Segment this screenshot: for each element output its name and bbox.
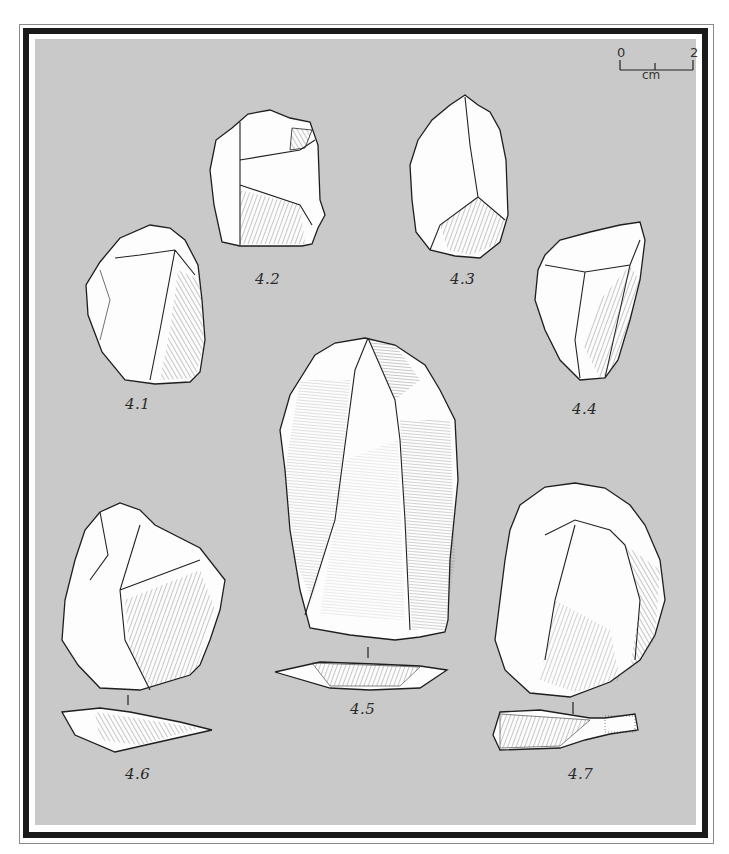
artifact-4-4 <box>535 222 645 380</box>
artifact-4-7 <box>493 483 665 750</box>
artifact-4-1 <box>86 225 205 384</box>
artifact-4-2 <box>210 110 325 246</box>
artifact-4-3 <box>410 95 508 258</box>
figure-label-4-4: 4.4 <box>572 400 597 418</box>
scale-end: 2 <box>690 45 698 60</box>
artifact-drawings <box>0 0 729 854</box>
figure-label-4-1: 4.1 <box>125 395 150 413</box>
figure-label-4-6: 4.6 <box>125 765 150 783</box>
scale-start: 0 <box>617 45 625 60</box>
artifact-4-5 <box>275 338 458 690</box>
scale-unit: cm <box>642 68 660 82</box>
scale-labels: 0 2 cm <box>617 45 697 85</box>
figure-label-4-7: 4.7 <box>568 765 593 783</box>
figure-label-4-2: 4.2 <box>255 270 280 288</box>
figure-label-4-3: 4.3 <box>450 270 475 288</box>
figure-label-4-5: 4.5 <box>350 700 375 718</box>
artifact-4-6 <box>62 503 225 752</box>
